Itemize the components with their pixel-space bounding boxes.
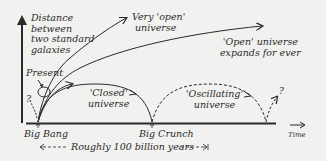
question-right: ?: [279, 86, 284, 97]
intermediate-curve: [38, 84, 72, 122]
y-axis-label-line: two standard: [31, 34, 95, 45]
open-label-line: 'Open' universe: [220, 37, 301, 48]
very-open-label-line: Very 'open': [132, 12, 185, 23]
closed-label: 'Closed' universe: [88, 88, 129, 109]
time-arrow-icon: [290, 122, 305, 128]
span-label: Roughly 100 billion years: [71, 142, 194, 153]
closed-label-line: 'Closed': [88, 88, 129, 99]
present-label: Present: [26, 68, 63, 79]
very-open-label: Very 'open' universe: [132, 12, 185, 33]
oscillating-label-line: universe: [186, 100, 243, 111]
big-bang-label: Big Bang: [24, 129, 68, 140]
time-label: Time: [288, 130, 306, 141]
oscillating-label: 'Oscillating' universe: [186, 89, 243, 110]
very-open-label-line: universe: [132, 23, 185, 34]
closed-label-line: universe: [88, 99, 129, 110]
open-label: 'Open' universe expands for ever: [220, 37, 301, 58]
open-label-line: expands for ever: [220, 48, 301, 59]
oscillating-label-line: 'Oscillating': [186, 89, 243, 100]
question-left: ?: [26, 94, 31, 105]
big-crunch-label: Big Crunch: [139, 129, 194, 140]
y-axis-label-line: Distance: [31, 13, 95, 24]
y-axis-label-line: galaxies: [31, 45, 95, 56]
y-axis-label: Distance between two standard galaxies: [31, 13, 95, 55]
present-marker: [38, 87, 50, 97]
